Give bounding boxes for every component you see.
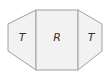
center-face-label: R: [53, 31, 61, 44]
net-diagram: T R T: [0, 0, 109, 74]
